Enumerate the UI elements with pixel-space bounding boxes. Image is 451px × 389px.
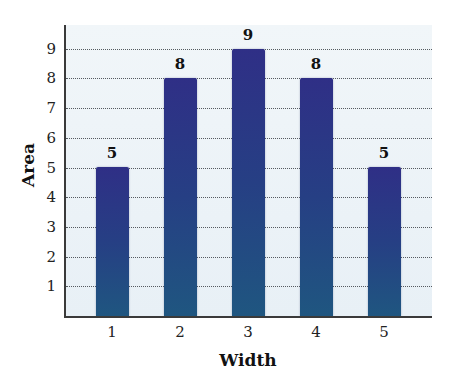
bar xyxy=(300,78,333,316)
y-tick-label: 8 xyxy=(36,70,56,86)
x-tick-label: 1 xyxy=(97,324,127,340)
bar-value-label: 9 xyxy=(228,27,268,43)
x-tick-label: 5 xyxy=(369,324,399,340)
x-axis-line xyxy=(64,316,432,318)
bar xyxy=(368,167,401,316)
y-tick-label: 3 xyxy=(36,219,56,235)
y-tick-label: 4 xyxy=(36,189,56,205)
bar xyxy=(96,167,129,316)
y-tick-label: 9 xyxy=(36,41,56,57)
bar-value-label: 5 xyxy=(364,145,404,161)
y-axis-title: Area xyxy=(18,115,38,215)
y-tick-label: 1 xyxy=(36,278,56,294)
y-tick-label: 5 xyxy=(36,160,56,176)
bar-value-label: 8 xyxy=(160,56,200,72)
x-tick-label: 3 xyxy=(233,324,263,340)
x-tick-label: 4 xyxy=(301,324,331,340)
bar-value-label: 5 xyxy=(92,145,132,161)
x-axis-title: Width xyxy=(198,350,298,370)
y-tick-label: 7 xyxy=(36,100,56,116)
bar xyxy=(164,78,197,316)
bar xyxy=(232,49,265,316)
y-tick-label: 2 xyxy=(36,249,56,265)
bar-value-label: 8 xyxy=(296,56,336,72)
x-tick-label: 2 xyxy=(165,324,195,340)
y-axis-line xyxy=(64,25,66,318)
bar-chart: 58985 123456789 12345 Width Area xyxy=(0,0,451,389)
y-tick-label: 6 xyxy=(36,130,56,146)
